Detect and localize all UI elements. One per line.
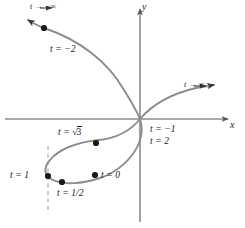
label-t-approaches-pos-infinity: t → ∞: [184, 80, 204, 89]
label-t-sqrt3: t = √3: [58, 127, 82, 138]
radical-radicand: 3: [77, 126, 83, 137]
point-t-half: [59, 179, 65, 185]
label-t-pos-inf-text: t → ∞: [184, 80, 204, 89]
point-t-sqrt3: [93, 140, 99, 146]
point-t-minus-2: [41, 25, 47, 31]
label-t-equals-2: t = 2: [150, 136, 176, 148]
plot-canvas: [0, 0, 245, 228]
label-t-minus-2: t = −2: [50, 44, 76, 55]
label-t-equals-1: t = 1: [10, 170, 29, 181]
point-t-0: [92, 172, 98, 178]
radical-sqrt3: √3: [72, 127, 82, 138]
parametric-curve-figure: y x t → −∞ t → ∞ t = −2 t = √3 t = −1 t …: [0, 0, 245, 228]
label-t-sqrt3-prefix: t =: [58, 127, 72, 137]
point-t-1: [45, 173, 51, 179]
label-t-equals-half: t = 1/2: [57, 188, 84, 199]
label-t-neg-inf-text: t → −∞: [30, 2, 56, 11]
y-axis-label: y: [142, 1, 146, 12]
label-t-equals-0: t = 0: [101, 170, 120, 181]
x-axis-label: x: [230, 119, 234, 130]
label-t-approaches-neg-infinity: t → −∞: [30, 2, 56, 11]
label-origin-parameters: t = −1 t = 2: [150, 124, 176, 148]
label-t-minus-1: t = −1: [150, 124, 176, 136]
